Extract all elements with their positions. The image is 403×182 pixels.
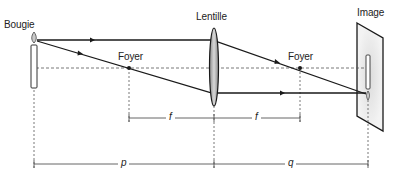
lens-diagram: Bougie Lentille Foyer Foyer Image f f p …	[0, 0, 403, 182]
candle-icon	[31, 32, 37, 88]
ray-through-focus	[37, 41, 366, 93]
focus-left-label: Foyer	[118, 51, 143, 62]
distance-brackets	[34, 160, 368, 168]
image-label: Image	[357, 7, 384, 18]
rays	[37, 40, 366, 94]
focal-length-left-label: f	[166, 111, 175, 122]
lens-icon	[210, 28, 219, 106]
focus-right-label: Foyer	[288, 51, 313, 62]
ray-arrows	[78, 38, 286, 96]
image-distance-label: q	[285, 157, 296, 168]
lens-label: Lentille	[196, 11, 227, 22]
focal-brackets	[129, 114, 300, 122]
object-distance-label: p	[118, 157, 129, 168]
candle-label: Bougie	[4, 19, 35, 30]
image-candle-icon	[366, 55, 370, 100]
focal-length-right-label: f	[252, 111, 261, 122]
focus-right-dot	[298, 66, 302, 70]
ray-parallel	[37, 40, 366, 94]
focus-left-dot	[127, 66, 131, 70]
optics-drawing	[0, 0, 403, 182]
